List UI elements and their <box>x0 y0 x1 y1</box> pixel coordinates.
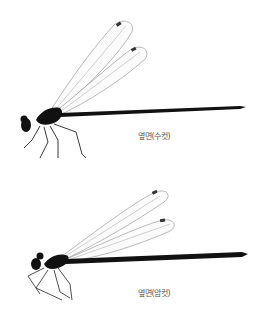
female-legs <box>28 268 72 300</box>
female-head <box>31 258 41 270</box>
female-thorax <box>44 254 69 269</box>
male-damselfly-illustration <box>0 0 268 160</box>
female-wings <box>62 191 174 261</box>
male-thorax <box>36 108 62 125</box>
specimen-male: 옆면(수컷) <box>0 0 268 160</box>
male-legs <box>24 124 86 158</box>
male-wings <box>52 21 147 114</box>
female-eye <box>37 253 44 260</box>
female-damselfly-illustration <box>0 160 268 318</box>
male-abdomen <box>60 106 246 117</box>
male-label: 옆면(수컷) <box>138 130 170 141</box>
female-label: 옆면(암컷) <box>138 287 170 298</box>
male-eye <box>21 116 28 123</box>
specimen-female: 옆면(암컷) <box>0 160 268 318</box>
damselfly-figure: 옆면(수컷) 옆면(암컷) <box>0 0 268 318</box>
